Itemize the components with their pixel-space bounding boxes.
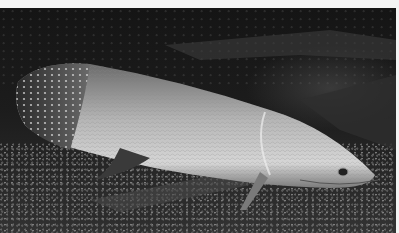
fish-illustration [0,8,396,233]
fish-photo [0,8,396,233]
